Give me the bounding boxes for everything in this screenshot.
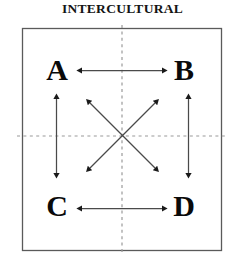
node-label-a: A xyxy=(40,55,74,85)
node-label-b: B xyxy=(167,55,201,85)
node-label-c: C xyxy=(40,191,74,221)
diagram-canvas xyxy=(0,0,245,262)
intercultural-diagram: INTERCULTURAL A B C D xyxy=(0,0,245,262)
node-label-d: D xyxy=(167,191,201,221)
